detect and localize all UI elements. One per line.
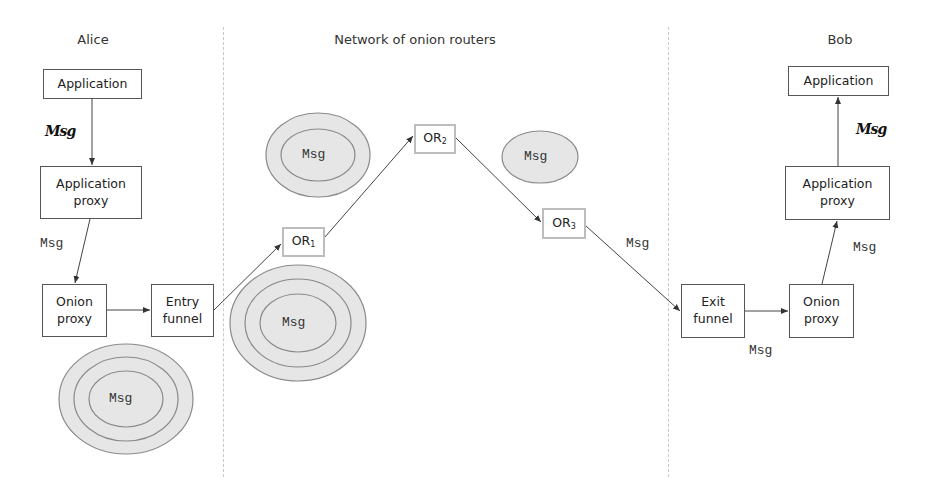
entry-funnel-line2: funnel [163, 311, 202, 328]
bob-onionproxy-line2: proxy [803, 311, 840, 328]
alice-application-box: Application [43, 69, 142, 99]
alice-msg-label: Msg [40, 236, 63, 251]
onion-router-3: OR3 [542, 208, 586, 239]
or2-onion-label: Msg [302, 147, 325, 162]
exit-funnel-box: Exit funnel [681, 284, 745, 338]
or3-to-exit-msg-label: Msg [626, 236, 649, 251]
entry-funnel-box: Entry funnel [151, 284, 214, 337]
onion-routing-diagram: Alice Network of onion routers Bob [0, 0, 929, 498]
or1-onion-label: Msg [282, 315, 305, 330]
alice-onion-label: Msg [109, 391, 132, 406]
bob-application-proxy-box: Application proxy [785, 166, 890, 220]
bob-plain-msg-label: Msg [856, 121, 886, 137]
alice-application-proxy-box: Application proxy [40, 166, 142, 219]
or3-onion-label: Msg [524, 149, 547, 164]
bob-onionproxy-line1: Onion [803, 294, 840, 311]
or1-label: OR1 [292, 233, 316, 251]
alice-appproxy-line1: Application [56, 176, 126, 193]
bob-funnel-msg-label: Msg [749, 343, 772, 358]
arrow-onionproxy-to-appproxy [822, 221, 837, 284]
alice-onionproxy-line2: proxy [56, 311, 93, 328]
or3-label: OR3 [552, 215, 576, 233]
entry-funnel-line1: Entry [163, 294, 202, 311]
or2-label: OR2 [423, 130, 447, 148]
bob-appproxy-line1: Application [803, 176, 873, 193]
bob-proxy-msg-label: Msg [853, 240, 876, 255]
exit-funnel-line2: funnel [693, 311, 732, 328]
alice-onionproxy-line1: Onion [56, 294, 93, 311]
onion-router-1: OR1 [282, 227, 325, 257]
bob-application-box: Application [788, 66, 889, 96]
alice-appproxy-line2: proxy [56, 193, 126, 210]
bob-appproxy-line2: proxy [803, 193, 873, 210]
onion-router-2: OR2 [414, 124, 456, 154]
alice-onion-proxy-box: Onion proxy [42, 284, 107, 337]
alice-application-label: Application [58, 76, 128, 93]
arrow-appproxy-to-onionproxy [75, 219, 90, 283]
bob-onion-proxy-box: Onion proxy [789, 284, 854, 338]
alice-plain-msg-label: Msg [45, 123, 75, 139]
bob-application-label: Application [804, 73, 874, 90]
exit-funnel-line1: Exit [693, 294, 732, 311]
